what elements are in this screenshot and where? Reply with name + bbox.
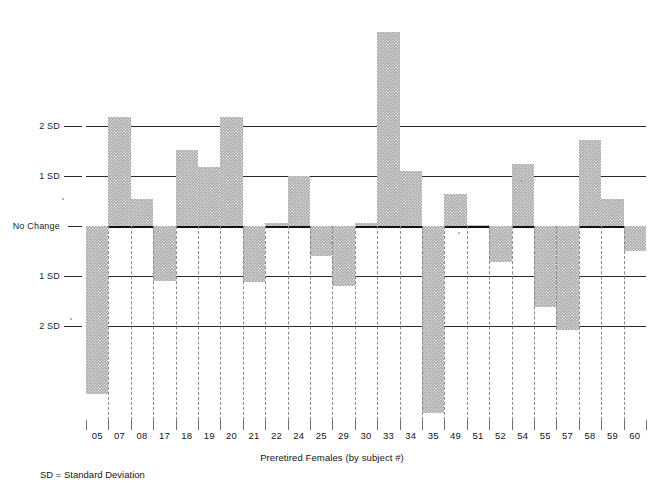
- x-axis-tick: [512, 420, 513, 430]
- scan-speck: [520, 180, 522, 182]
- category-separator: [579, 226, 580, 430]
- x-axis-tick: [377, 420, 378, 430]
- bar: [400, 171, 422, 226]
- x-axis-title: Preretired Females (by subject #): [0, 452, 664, 463]
- footnote: SD = Standard Deviation: [40, 469, 145, 480]
- category-separator: [534, 226, 535, 430]
- bar: [86, 226, 108, 394]
- category-separator: [512, 226, 513, 430]
- x-axis-label: 57: [562, 430, 573, 441]
- y-axis-label: No Change: [13, 221, 60, 231]
- x-axis-label: 49: [450, 430, 461, 441]
- gridline-plus2sd: [86, 126, 646, 127]
- category-separator: [422, 226, 423, 430]
- x-axis-tick: [646, 420, 647, 430]
- category-separator: [220, 226, 221, 430]
- bar: [355, 223, 377, 225]
- plot-area: [86, 12, 646, 430]
- category-separator: [265, 226, 266, 430]
- bar: [310, 226, 332, 256]
- x-axis-label: 25: [316, 430, 327, 441]
- category-separator: [400, 226, 401, 430]
- x-axis-label: 58: [585, 430, 596, 441]
- x-axis-label: 30: [361, 430, 372, 441]
- bar: [512, 164, 534, 226]
- y-axis-leader-line: [68, 226, 82, 227]
- bar: [579, 140, 601, 226]
- bar: [131, 199, 153, 226]
- x-axis-tick: [400, 420, 401, 430]
- x-axis-label: 19: [204, 430, 215, 441]
- y-axis-leader-line: [64, 176, 82, 177]
- x-axis-tick: [556, 420, 557, 430]
- category-separator: [131, 226, 132, 430]
- figure: 2 SD1 SDNo Change1 SD2 SD 05070817181920…: [0, 0, 664, 497]
- scan-speck: [458, 232, 460, 234]
- x-axis-label: 33: [383, 430, 394, 441]
- x-axis-tick: [288, 420, 289, 430]
- category-separator: [243, 226, 244, 430]
- category-separator: [310, 226, 311, 430]
- bar: [288, 176, 310, 226]
- x-axis-label: 60: [629, 430, 640, 441]
- bar: [265, 223, 287, 226]
- x-axis-label: 17: [159, 430, 170, 441]
- x-axis-tick: [355, 420, 356, 430]
- x-axis-tick: [579, 420, 580, 430]
- x-axis-tick: [310, 420, 311, 430]
- x-axis-tick: [198, 420, 199, 430]
- category-separator: [601, 226, 602, 430]
- y-axis-leader-line: [64, 326, 82, 327]
- bar: [444, 194, 466, 226]
- x-axis-label: 35: [428, 430, 439, 441]
- x-axis-tick: [422, 420, 423, 430]
- category-separator: [153, 226, 154, 430]
- bar: [176, 150, 198, 226]
- y-axis-leader-line: [64, 126, 82, 127]
- x-axis-label: 34: [405, 430, 416, 441]
- x-axis-label: 18: [181, 430, 192, 441]
- y-axis-label: 2 SD: [39, 121, 60, 131]
- bar: [556, 226, 578, 331]
- gridline-plus1sd: [86, 176, 646, 177]
- x-axis-label: 54: [517, 430, 528, 441]
- x-axis-label: 05: [92, 430, 103, 441]
- category-separator: [198, 226, 199, 430]
- y-axis-label: 1 SD: [39, 171, 60, 181]
- bar: [108, 117, 130, 226]
- bar: [332, 226, 354, 286]
- category-separator: [444, 226, 445, 430]
- x-axis-tick: [243, 420, 244, 430]
- x-axis-tick: [624, 420, 625, 430]
- x-axis-label: 24: [293, 430, 304, 441]
- x-axis-label: 29: [338, 430, 349, 441]
- category-separator: [108, 226, 109, 430]
- x-axis-tick: [153, 420, 154, 430]
- bar: [422, 226, 444, 413]
- y-axis-leader-line: [64, 276, 82, 277]
- category-separator: [332, 226, 333, 430]
- x-axis-tick: [489, 420, 490, 430]
- bar: [243, 226, 265, 282]
- bar: [377, 32, 399, 226]
- x-axis-tick: [220, 420, 221, 430]
- x-axis-tick: [601, 420, 602, 430]
- scan-speck: [70, 318, 72, 320]
- category-separator: [288, 226, 289, 430]
- category-separator: [467, 226, 468, 430]
- scan-speck: [62, 198, 64, 200]
- x-axis-tick: [332, 420, 333, 430]
- category-separator: [489, 226, 490, 430]
- category-separator: [377, 226, 378, 430]
- x-axis-labels: 0507081718192021222425293033343549515254…: [86, 430, 646, 446]
- category-separator: [624, 226, 625, 430]
- x-axis-label: 52: [495, 430, 506, 441]
- bar: [220, 117, 242, 226]
- x-axis-tick: [176, 420, 177, 430]
- x-axis-tick: [265, 420, 266, 430]
- y-axis-label: 2 SD: [39, 321, 60, 331]
- x-axis-tick: [86, 420, 87, 430]
- x-axis-label: 07: [114, 430, 125, 441]
- scan-speck: [330, 242, 332, 244]
- bar: [534, 226, 556, 307]
